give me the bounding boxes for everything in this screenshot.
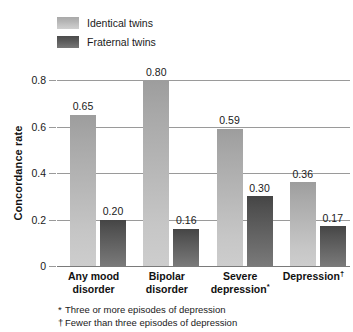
category-label-line2: disorder (73, 283, 115, 295)
footnote-dagger-mark: † (58, 316, 65, 329)
bar-identical-twins: 0.80 (143, 80, 169, 266)
y-axis-tick-mark (49, 127, 56, 128)
chart-footnotes: *Three or more episodes of depression †F… (58, 303, 348, 329)
category-label: Depression† (270, 270, 353, 283)
category-footnote-mark: * (267, 281, 270, 290)
footnote-dagger: †Fewer than three episodes of depression (58, 316, 348, 329)
identical-twins-swatch-icon (57, 17, 79, 29)
x-axis-category-labels: Any mooddisorderBipolardisorderSeveredep… (57, 270, 350, 302)
bar-group: 0.590.30 (217, 80, 277, 266)
bar-identical-twins: 0.59 (217, 129, 243, 266)
category-footnote-mark: † (340, 269, 344, 278)
footnote-asterisk: *Three or more episodes of depression (58, 303, 348, 316)
bar-identical-twins: 0.36 (290, 182, 316, 266)
legend-item-identical-twins: Identical twins (57, 14, 257, 31)
bar-value-label: 0.30 (249, 183, 269, 194)
bar-fraternal-twins: 0.20 (100, 220, 126, 267)
y-axis-tick-mark (49, 80, 56, 81)
bar-group: 0.360.17 (290, 80, 350, 266)
y-axis-tick-label: 0 (40, 261, 46, 272)
y-axis-tick-label: 0.8 (31, 75, 46, 86)
category-label-line1: Any mood (68, 270, 119, 282)
bar-fraternal-twins: 0.17 (320, 226, 346, 266)
bar-value-label: 0.36 (293, 169, 313, 180)
footnote-asterisk-text: Three or more episodes of depression (65, 304, 226, 315)
y-axis-tick-label: 0.2 (31, 214, 46, 225)
category-label-line1: Bipolar (149, 270, 185, 282)
bar-fraternal-twins: 0.30 (247, 196, 273, 266)
bar-value-label: 0.65 (73, 101, 93, 112)
category-label-line2: depression* (211, 283, 270, 295)
footnote-asterisk-mark: * (58, 303, 65, 316)
y-axis-title-text: Concordance rate (12, 125, 24, 220)
y-axis-title: Concordance rate (10, 80, 26, 266)
y-axis-tick-mark (49, 220, 56, 221)
y-axis-tick-mark (49, 266, 56, 267)
fraternal-twins-swatch-icon (57, 36, 79, 48)
bar-value-label: 0.20 (103, 206, 123, 217)
bar-value-label: 0.80 (146, 67, 166, 78)
category-label-line1: Severe (223, 270, 257, 282)
legend-label-fraternal-twins: Fraternal twins (87, 36, 156, 48)
y-axis-tick-mark (49, 173, 56, 174)
bar-group: 0.650.20 (70, 80, 130, 266)
bar-identical-twins: 0.65 (70, 115, 96, 266)
chart-legend: Identical twins Fraternal twins (57, 14, 257, 52)
category-label-line2: disorder (146, 283, 188, 295)
y-axis-tick-label: 0.4 (31, 168, 46, 179)
bar-group: 0.800.16 (143, 80, 203, 266)
bar-fraternal-twins: 0.16 (173, 229, 199, 266)
bar-value-label: 0.17 (323, 213, 343, 224)
footnote-dagger-text: Fewer than three episodes of depression (65, 317, 237, 328)
plot-area: 0.80.60.40.200.650.200.800.160.590.300.3… (57, 80, 350, 266)
legend-item-fraternal-twins: Fraternal twins (57, 33, 257, 50)
bar-value-label: 0.59 (219, 115, 239, 126)
legend-label-identical-twins: Identical twins (87, 17, 153, 29)
bar-value-label: 0.16 (176, 215, 196, 226)
y-axis-tick-label: 0.6 (31, 121, 46, 132)
category-label-line1: Depression† (283, 270, 344, 282)
